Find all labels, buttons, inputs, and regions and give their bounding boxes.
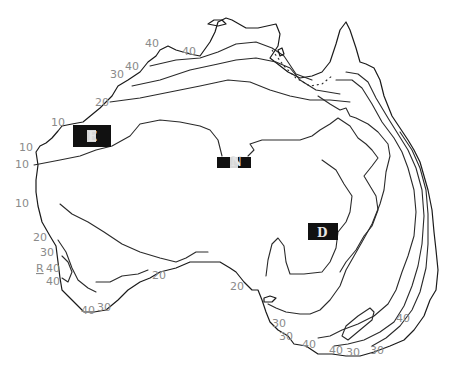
contour-sw-40 <box>62 256 72 282</box>
contour-label: 10 <box>15 158 29 171</box>
australia-contour-map: E N D 4040304020101010102030R40404030202… <box>0 0 457 371</box>
contour-label: 20 <box>152 269 166 282</box>
contour-label: 30 <box>279 330 293 343</box>
contour-label: 20 <box>95 96 109 109</box>
region-box-e: E <box>73 125 111 147</box>
contour-gulf-interior <box>268 96 390 314</box>
contour-sw-30 <box>58 240 96 292</box>
contour-label: 30 <box>110 68 124 81</box>
box-label-e: E <box>88 130 97 144</box>
contour-label: 30 <box>370 344 384 357</box>
contour-label: 40 <box>81 304 95 317</box>
contour-label: 10 <box>51 116 65 129</box>
island-gulf <box>278 48 284 56</box>
contour-label: 40 <box>145 37 159 50</box>
contour-20-south <box>60 204 208 262</box>
contour-label: 20 <box>33 231 47 244</box>
contour-label: 40 <box>46 262 60 275</box>
contour-label: 20 <box>230 280 244 293</box>
region-box-d: D <box>308 223 338 240</box>
contour-east-1 <box>318 80 416 338</box>
island-kangaroo <box>264 296 276 302</box>
contour-to-d <box>266 160 352 276</box>
contour-label: 40 <box>182 45 196 58</box>
contour-label: 10 <box>15 197 29 210</box>
contour-label: 30 <box>272 317 286 330</box>
contour-20-south-inner <box>96 270 148 282</box>
region-box-n: N <box>217 155 251 169</box>
box-label-d: D <box>317 226 327 240</box>
marker-label-r: R <box>36 262 44 275</box>
contour-label: 30 <box>346 346 360 359</box>
contour-label: 30 <box>97 301 111 314</box>
contour-label: 40 <box>329 344 343 357</box>
contour-label: 40 <box>125 60 139 73</box>
contour-label: 10 <box>19 141 33 154</box>
contour-label: 40 <box>302 338 316 351</box>
contour-east-2 <box>334 72 424 346</box>
contour-label: 30 <box>40 246 54 259</box>
contour-label: 40 <box>46 275 60 288</box>
box-label-n: N <box>231 155 242 169</box>
contour-label: 40 <box>396 312 410 325</box>
contour-labels: 4040304020101010102030R40404030202030304… <box>15 37 410 359</box>
